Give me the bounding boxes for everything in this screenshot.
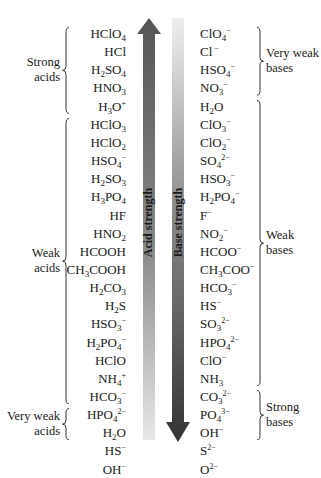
base-formula: SO32− [200, 315, 230, 333]
acid-formula: HNO3 [93, 79, 126, 97]
acid-formula: HF [109, 207, 126, 225]
base-formula: NO2− [200, 225, 228, 243]
acid-formula: H3PO4 [91, 188, 126, 206]
base-formula: ClO3− [200, 116, 231, 134]
acid-formula: HSO4− [91, 152, 126, 170]
group-label: Weakbases [266, 228, 294, 258]
base-formula: SO42− [200, 152, 230, 170]
base-formula: S2− [200, 442, 216, 460]
base-formula: H2PO4− [200, 188, 240, 206]
base-formula: NH3 [200, 370, 223, 388]
acid-formula: HClO3 [90, 116, 126, 134]
group-label: Weakacids [32, 246, 60, 276]
base-formula: OH− [200, 424, 223, 442]
right-brace-icon [256, 390, 264, 440]
base-formula: HSO4− [200, 61, 235, 79]
acid-formula: HClO2 [90, 134, 126, 152]
left-brace-icon [62, 118, 70, 404]
base-formula: F− [200, 207, 212, 225]
acid-formula: H2SO3 [91, 170, 126, 188]
acid-formula: H2PO4− [86, 334, 126, 352]
acid-formula: H2CO3 [90, 279, 126, 297]
acid-formula: HSO3− [91, 315, 126, 333]
group-label: Strongbases [266, 400, 299, 430]
left-brace-icon [62, 27, 70, 114]
base-formula: Cl − [200, 43, 219, 61]
left-brace-icon [62, 408, 70, 440]
acid-formula: OH− [103, 461, 126, 478]
base-formula: PO43− [200, 406, 230, 424]
acid-formula: H2SO4 [91, 61, 126, 79]
acid-formula: HCO3− [90, 388, 126, 406]
acid-formula: HS− [105, 442, 126, 460]
base-strength-label: Base strength [171, 183, 186, 263]
acid-formula: HClO4 [90, 25, 126, 43]
base-formula: HCO3− [200, 279, 236, 297]
acid-formula: CH3COOH [67, 261, 126, 279]
acid-formula: HNO2 [93, 225, 126, 243]
base-formula: ClO4− [200, 25, 231, 43]
base-formula: CO32− [200, 388, 231, 406]
acid-formula: H2O [103, 424, 126, 442]
right-brace-icon [256, 27, 264, 96]
acid-formula: NH4+ [98, 370, 126, 388]
acid-formula: HClO [95, 352, 126, 370]
acid-formula: HCOOH [80, 243, 126, 261]
group-label: Very weakacids [7, 409, 60, 439]
acid-formula: H3O+ [98, 98, 126, 116]
base-formula: HCOO− [200, 243, 241, 261]
base-formula: HS− [200, 297, 221, 315]
base-formula: ClO2− [200, 134, 231, 152]
acid-formula: HCl [104, 43, 126, 61]
group-label: Strongacids [27, 55, 60, 85]
group-label: Very weakbases [266, 46, 319, 76]
acid-formula: H2S [105, 297, 126, 315]
acid-strength-label: Acid strength [141, 183, 156, 263]
base-formula: HSO3− [200, 170, 235, 188]
base-formula: ClO− [200, 352, 226, 370]
base-formula: O2− [200, 461, 218, 478]
base-formula: CH3COO− [200, 261, 255, 279]
base-formula: H2O [200, 98, 223, 116]
acid-formula: HPO42− [87, 406, 126, 424]
base-formula: HPO42− [200, 334, 239, 352]
base-formula: NO3− [200, 79, 228, 97]
right-brace-icon [256, 100, 264, 386]
